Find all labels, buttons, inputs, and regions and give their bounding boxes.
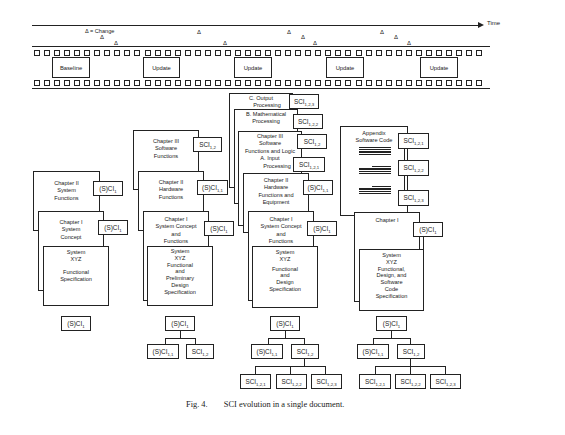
tree-grandchild: SCI1,2,3 xyxy=(430,374,461,389)
film-bottom-edge xyxy=(32,88,490,89)
sprocket-hole xyxy=(104,50,110,56)
sprocket-hole xyxy=(356,50,362,56)
sprocket-hole xyxy=(44,50,50,56)
sprocket-hole xyxy=(396,50,402,56)
page-system-spec: System XYZ Functional and Preliminary De… xyxy=(147,246,213,306)
change-marker-icon: Δ xyxy=(394,34,398,40)
frame-update-4: Update xyxy=(420,57,458,78)
sprocket-hole xyxy=(335,50,341,56)
sprocket-hole xyxy=(155,50,161,56)
page-system-spec: System XYZ Functional, Design, and Softw… xyxy=(359,249,424,311)
sci-label: SCI1,2,2 xyxy=(398,160,429,176)
time-axis xyxy=(32,25,480,26)
sprocket-hole xyxy=(406,80,412,86)
sprocket-hole xyxy=(275,80,281,86)
sprocket-hole xyxy=(104,80,110,86)
sprocket-hole xyxy=(235,50,241,56)
tree-grandchild: SCI1,2,1 xyxy=(359,374,391,389)
sprocket-hole xyxy=(456,80,462,86)
page-system-spec: System XYZ Functional and Design Specifi… xyxy=(252,246,318,308)
sprocket-hole xyxy=(44,80,50,86)
sprocket-hole xyxy=(456,50,462,56)
tree-grandchild: SCI1,2,2 xyxy=(395,374,426,389)
sci-label: SCI1,2,3 xyxy=(289,94,319,109)
sprocket-hole xyxy=(84,80,90,86)
sprocket-hole xyxy=(305,80,311,86)
sprocket-hole xyxy=(356,80,362,86)
sprocket-hole xyxy=(466,80,472,86)
sprocket-hole xyxy=(225,50,231,56)
tree-grandchild: SCI1,2,3 xyxy=(311,374,342,389)
sprocket-hole xyxy=(255,50,261,56)
sprocket-hole xyxy=(245,50,251,56)
sprocket-hole xyxy=(325,50,331,56)
sprocket-hole xyxy=(185,80,191,86)
sprocket-hole xyxy=(114,80,120,86)
sprocket-hole xyxy=(345,80,351,86)
sprocket-hole xyxy=(145,80,151,86)
sprocket-hole xyxy=(195,50,201,56)
page-system-spec: System XYZ Functional Specification xyxy=(43,246,109,306)
sprocket-hole xyxy=(315,50,321,56)
sprocket-hole xyxy=(466,50,472,56)
sprocket-hole xyxy=(416,50,422,56)
sprocket-hole xyxy=(64,50,70,56)
sprocket-hole xyxy=(215,50,221,56)
sprocket-hole xyxy=(295,80,301,86)
sprocket-hole xyxy=(205,50,211,56)
change-marker-icon: Δ xyxy=(380,29,384,35)
sprocket-hole xyxy=(205,80,211,86)
tree-child: (S)CI1,1 xyxy=(357,344,389,359)
sprocket-hole xyxy=(285,80,291,86)
sprocket-hole xyxy=(426,50,432,56)
sprocket-hole xyxy=(426,80,432,86)
sprocket-hole xyxy=(295,50,301,56)
sprocket-hole xyxy=(315,80,321,86)
tree-root: (S)CI1 xyxy=(61,316,91,331)
film-top-edge xyxy=(32,46,490,47)
sprocket-hole xyxy=(265,80,271,86)
sprocket-hole xyxy=(215,80,221,86)
sprocket-hole xyxy=(34,80,40,86)
change-marker-icon: Δ xyxy=(287,29,291,35)
change-marker-icon: Δ xyxy=(100,34,104,40)
tree-root: (S)CI1 xyxy=(376,316,407,331)
tree-child: (S)CI1,1 xyxy=(251,344,283,359)
time-axis-label: Time xyxy=(487,20,500,26)
sprocket-hole xyxy=(64,80,70,86)
sprocket-hole xyxy=(376,50,382,56)
tree-child: (S)CI1,1 xyxy=(147,344,179,359)
sprocket-hole xyxy=(265,50,271,56)
sprocket-hole xyxy=(275,50,281,56)
frame-update-2: Update xyxy=(234,57,272,78)
tree-grandchild: SCI1,2,2 xyxy=(276,374,307,389)
sprocket-hole xyxy=(84,50,90,56)
sprocket-hole xyxy=(325,80,331,86)
sprocket-hole xyxy=(376,80,382,86)
sprocket-hole xyxy=(195,80,201,86)
change-marker-icon: Δ xyxy=(301,34,305,40)
sprocket-hole xyxy=(134,50,140,56)
sci-label: SCI1,2,3 xyxy=(398,190,429,206)
sprocket-hole xyxy=(74,80,80,86)
sprocket-hole xyxy=(74,50,80,56)
sprocket-hole xyxy=(396,80,402,86)
tree-grandchild: SCI1,2,1 xyxy=(240,374,271,389)
sprocket-hole xyxy=(145,50,151,56)
code-listing xyxy=(359,147,391,195)
sprocket-hole xyxy=(94,80,100,86)
sprocket-hole xyxy=(366,50,372,56)
sprocket-hole xyxy=(386,50,392,56)
sprocket-hole xyxy=(155,80,161,86)
sci-label: (S)CI1,1 xyxy=(197,180,228,195)
sci-label: SCI1,2 xyxy=(297,134,327,149)
sprocket-hole xyxy=(235,80,241,86)
sprocket-hole xyxy=(446,80,452,86)
sprocket-hole xyxy=(446,50,452,56)
sprocket-row-bottom xyxy=(34,80,486,86)
sprocket-hole xyxy=(94,50,100,56)
figure-text: SCI evolution in a single document. xyxy=(224,400,345,409)
sprocket-hole xyxy=(436,50,442,56)
sprocket-hole xyxy=(134,80,140,86)
sprocket-hole xyxy=(476,50,482,56)
